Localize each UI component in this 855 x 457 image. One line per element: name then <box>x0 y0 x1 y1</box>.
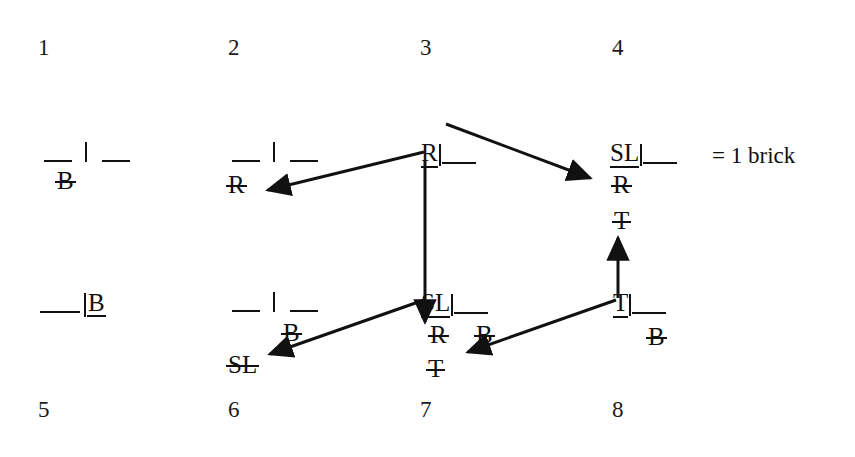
letter-t: T <box>614 208 629 233</box>
state-number-7: 7 <box>420 398 432 421</box>
state-4-label-r: R <box>613 172 630 197</box>
brick-glyph-2 <box>232 144 318 166</box>
brick-glyph-1 <box>44 144 130 166</box>
state-7-label-b: B <box>476 322 493 347</box>
letter-r: R <box>613 172 630 197</box>
state-7-label-r: R <box>430 322 447 347</box>
state-4-head-letters: SL <box>610 140 639 166</box>
brick-glyph-3: R <box>421 140 476 168</box>
brick-glyph-4: SL <box>610 140 677 168</box>
state-cell-4: SL <box>610 140 677 168</box>
state-7-head-letters: SL <box>421 290 450 316</box>
state-5-head-letter: B <box>88 290 105 316</box>
state-2-label-r: R <box>228 172 245 197</box>
state-cell-3: R <box>421 140 476 168</box>
state-cell-5: B <box>40 290 105 317</box>
state-8-head-letters: T <box>613 290 628 316</box>
state-6-label-sl: SL <box>228 352 257 377</box>
brick-glyph-7: SL <box>421 290 488 318</box>
letter-sl: SL <box>228 352 257 377</box>
letter-b: B <box>283 320 300 345</box>
legend-text: = 1 brick <box>712 144 795 167</box>
state-number-4: 4 <box>612 36 624 59</box>
state-cell-6 <box>232 290 318 316</box>
state-cell-1 <box>44 140 130 166</box>
brick-glyph-6 <box>232 294 318 316</box>
letter-b: B <box>57 168 74 193</box>
state-4-label-t: T <box>614 208 629 233</box>
state-3-head-letters: R <box>421 140 438 166</box>
brick-glyph-5-rule <box>40 295 82 317</box>
state-8-label-b: B <box>648 324 665 349</box>
state-number-3: 3 <box>420 36 432 59</box>
state-number-8: 8 <box>612 398 624 421</box>
letter-b: B <box>476 322 493 347</box>
state-number-2: 2 <box>228 36 240 59</box>
state-1-label-b: B <box>57 168 74 193</box>
state-7-label-t: T <box>428 356 443 381</box>
brick-glyph-8: T <box>613 290 666 318</box>
letter-t: T <box>428 356 443 381</box>
state-cell-7: SL <box>421 290 488 318</box>
state-number-1: 1 <box>38 36 50 59</box>
state-6-label-b: B <box>283 320 300 345</box>
state-number-6: 6 <box>228 398 240 421</box>
state-number-5: 5 <box>38 398 50 421</box>
transition-arrows <box>0 0 855 457</box>
state-cell-2 <box>232 140 318 166</box>
diagram-canvas: 1 2 3 4 5 6 7 8 B R R SL R T = <box>0 0 855 457</box>
letter-r: R <box>430 322 447 347</box>
letter-b: B <box>648 324 665 349</box>
letter-r: R <box>228 172 245 197</box>
state-cell-8: T <box>613 290 666 318</box>
